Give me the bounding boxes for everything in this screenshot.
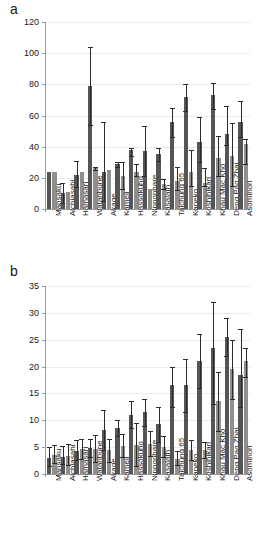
error-bar	[63, 183, 64, 203]
error-bar-cap-upper	[60, 446, 65, 447]
error-bar-cap-lower	[211, 404, 216, 405]
x-axis-tick	[86, 474, 87, 477]
x-axis-tick	[45, 209, 46, 212]
error-bar	[159, 407, 160, 442]
error-bar	[191, 150, 192, 186]
error-bar-cap-upper	[129, 148, 134, 149]
error-bar-cap-lower	[101, 201, 106, 202]
error-bar-cap-upper	[161, 179, 166, 180]
error-bar	[241, 101, 242, 137]
error-bar-cap-lower	[74, 187, 79, 188]
error-bar-cap-upper	[161, 436, 166, 437]
x-axis-tick	[59, 209, 60, 212]
y-axis-line	[45, 286, 46, 474]
x-axis-tick	[223, 209, 224, 212]
error-bar	[77, 440, 78, 460]
x-axis-tick	[141, 209, 142, 212]
error-bar-cap-lower	[115, 167, 120, 168]
error-bar-cap-lower	[142, 426, 147, 427]
x-axis-tick	[86, 209, 87, 212]
error-bar-cap-lower	[88, 457, 93, 458]
error-bar-cap-lower	[156, 161, 161, 162]
error-bar-cap-upper	[211, 302, 216, 303]
y-axis-tick-label: 15	[0, 389, 39, 398]
error-bar	[232, 340, 233, 399]
y-axis-tick-label: 30	[0, 309, 39, 318]
y-axis-tick-label: 80	[0, 80, 39, 89]
error-bar-cap-upper	[170, 367, 175, 368]
error-bar	[213, 302, 214, 404]
error-bar-cap-upper	[238, 101, 243, 102]
x-axis-category-label: Asominori	[246, 180, 254, 216]
error-bar	[246, 348, 247, 378]
gridline	[45, 340, 250, 341]
x-axis-tick	[195, 474, 196, 477]
error-bar-cap-upper	[183, 359, 188, 360]
x-axis-tick	[168, 209, 169, 212]
error-bar-cap-upper	[120, 434, 125, 435]
y-axis-line	[45, 22, 46, 209]
error-bar-cap-upper	[52, 445, 57, 446]
y-axis-tick-label: 10	[0, 416, 39, 425]
error-bar-cap-upper	[202, 168, 207, 169]
error-bar-cap-lower	[170, 137, 175, 138]
error-bar-cap-lower	[230, 399, 235, 400]
error-bar	[200, 117, 201, 162]
error-bar-cap-upper	[74, 440, 79, 441]
error-bar-cap-lower	[120, 189, 125, 190]
error-bar	[145, 126, 146, 176]
y-axis-tick-label: 0	[0, 205, 39, 214]
error-bar-cap-lower	[224, 145, 229, 146]
error-bar	[145, 399, 146, 426]
y-axis-tick-label: 40	[0, 143, 39, 152]
error-bar-cap-lower	[183, 111, 188, 112]
error-bar	[241, 329, 242, 407]
error-bar	[186, 84, 187, 110]
error-bar-cap-upper	[88, 47, 93, 48]
error-bar	[172, 367, 173, 407]
error-bar-cap-lower	[243, 377, 248, 378]
error-bar-cap-upper	[107, 439, 112, 440]
bar-dark	[211, 95, 216, 209]
bar-dark	[156, 154, 161, 209]
error-bar-cap-lower	[170, 407, 175, 408]
error-bar	[131, 401, 132, 428]
error-bar	[172, 108, 173, 138]
x-axis-tick	[100, 474, 101, 477]
error-bar-cap-upper	[93, 167, 98, 168]
x-axis-category-label: Asominori	[246, 445, 254, 481]
error-bar-cap-lower	[183, 412, 188, 413]
error-bar-cap-upper	[243, 139, 248, 140]
error-bar-cap-lower	[197, 388, 202, 389]
x-axis-tick	[59, 474, 60, 477]
error-bar-cap-lower	[156, 442, 161, 443]
error-bar-cap-lower	[189, 186, 194, 187]
y-axis-tick-label: 35	[0, 282, 39, 291]
y-axis-tick-label: 100	[0, 49, 39, 58]
error-bar-cap-upper	[189, 150, 194, 151]
error-bar	[213, 83, 214, 109]
error-bar-cap-lower	[238, 407, 243, 408]
y-axis-tick-label: 20	[0, 363, 39, 372]
chart-panel-a: a 020406080100120MansakuAichiasahiHamasa…	[0, 0, 258, 278]
x-axis-tick	[154, 474, 155, 477]
error-bar	[49, 447, 50, 466]
x-axis-tick	[45, 474, 46, 477]
x-axis-tick	[72, 209, 73, 212]
error-bar-cap-lower	[129, 156, 134, 157]
error-bar	[200, 334, 201, 388]
x-axis-tick	[113, 474, 114, 477]
error-bar	[227, 318, 228, 356]
error-bar	[104, 410, 105, 450]
gridline	[45, 367, 250, 368]
error-bar-cap-upper	[189, 440, 194, 441]
x-axis-tick	[182, 209, 183, 212]
error-bar	[218, 372, 219, 431]
x-axis-tick	[195, 209, 196, 212]
error-bar	[90, 47, 91, 125]
error-bar	[123, 162, 124, 188]
error-bar-cap-upper	[79, 439, 84, 440]
gridline	[45, 116, 250, 117]
panel-b-label: b	[10, 264, 18, 278]
error-bar-cap-upper	[224, 318, 229, 319]
